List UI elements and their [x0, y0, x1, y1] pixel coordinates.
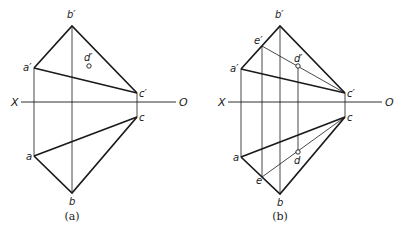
label-b-prime: b′: [67, 9, 76, 20]
front-view-edge-ac: [241, 69, 345, 93]
label-b: b: [69, 196, 75, 207]
point-d-prime-marker: [296, 64, 300, 68]
point-d-prime-marker: [87, 64, 91, 68]
label-a: a: [233, 152, 239, 163]
top-view-edge-ac: [34, 117, 137, 156]
label-b-prime: b′: [275, 9, 284, 20]
top-view-edge-ac: [241, 117, 345, 157]
projection-diagram: X O b′ a′ c′ d′ a b c (a) X O: [0, 0, 399, 232]
point-d-marker: [296, 150, 300, 154]
axis-label-x: X: [10, 96, 19, 109]
figure-b: X O b′ e′ a′ d′ c′ c a d e b (b): [217, 9, 394, 223]
caption-b: (b): [272, 210, 288, 223]
label-a-prime: a′: [230, 63, 239, 74]
label-c: c: [139, 112, 145, 123]
aux-line-c-e: [262, 117, 345, 177]
front-view-edge-ac: [34, 68, 137, 93]
top-view-edges: [34, 117, 137, 193]
caption-a: (a): [64, 210, 79, 223]
label-d: d: [294, 155, 301, 166]
label-c: c: [347, 112, 353, 123]
label-e: e: [256, 175, 262, 186]
axis-label-o: O: [385, 96, 394, 109]
label-e-prime: e′: [254, 35, 263, 46]
label-d-prime: d′: [84, 52, 93, 63]
aux-line-c-prime-e-prime: [262, 46, 345, 93]
label-c-prime: c′: [139, 88, 147, 99]
label-d-prime: d′: [294, 53, 303, 64]
axis-label-x: X: [217, 96, 226, 109]
axis-label-o: O: [179, 96, 188, 109]
label-b: b: [277, 197, 283, 208]
figure-a: X O b′ a′ c′ d′ a b c (a): [10, 9, 188, 223]
label-a-prime: a′: [23, 62, 32, 73]
label-a: a: [26, 151, 32, 162]
label-c-prime: c′: [347, 88, 355, 99]
